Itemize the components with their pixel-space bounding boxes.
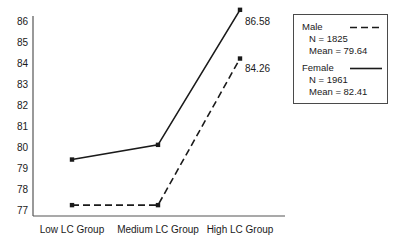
y-tick-label-82: 82 [8, 101, 28, 111]
data-point-female-0 [70, 157, 74, 161]
y-tick-label-85: 85 [8, 38, 28, 48]
legend-n-female: N = 1961 [309, 74, 348, 85]
legend: Male N = 1825 Mean = 79.64 Female N = 19… [293, 14, 388, 104]
y-tick-label-79: 79 [8, 164, 28, 174]
data-point-male-1 [156, 203, 160, 207]
data-point-male-0 [70, 203, 74, 207]
series-markers-female [70, 8, 242, 162]
legend-label-female: Female [302, 62, 334, 73]
series-line-male [72, 59, 240, 206]
x-tick-label-2: High LC Group [190, 224, 290, 235]
series-markers-male [70, 56, 242, 207]
legend-sample-male-dashed [350, 26, 382, 29]
x-tick-label-0: Low LC Group [22, 224, 122, 235]
y-tick-label-80: 80 [8, 143, 28, 153]
y-tick-label-78: 78 [8, 185, 28, 195]
line-chart: 86858483828180797877 Low LC GroupMedium … [0, 0, 401, 247]
data-point-male-2 [238, 56, 242, 60]
y-tick-label-86: 86 [8, 17, 28, 27]
data-label-female-high: 86.58 [245, 17, 270, 27]
data-label-male-high: 84.26 [245, 64, 270, 74]
y-tick-label-77: 77 [8, 206, 28, 216]
data-point-female-1 [156, 143, 160, 147]
legend-sample-female-solid [350, 67, 382, 70]
data-point-female-2 [238, 8, 242, 12]
y-tick-label-81: 81 [8, 122, 28, 132]
legend-mean-female: Mean = 82.41 [309, 86, 367, 97]
legend-label-male: Male [302, 21, 323, 32]
series-line-female [72, 10, 240, 160]
y-tick-label-84: 84 [8, 59, 28, 69]
legend-n-male: N = 1825 [309, 33, 348, 44]
legend-mean-male: Mean = 79.64 [309, 45, 367, 56]
y-tick-label-83: 83 [8, 80, 28, 90]
